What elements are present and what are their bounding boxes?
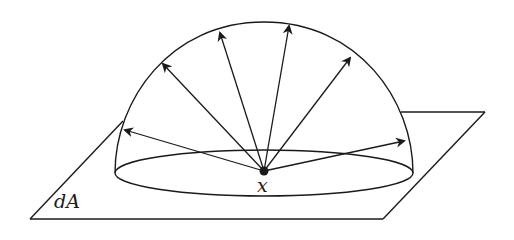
arrow-5 [264,58,350,171]
arrow-2 [163,64,264,171]
radiance-arrows [125,26,404,171]
point-label: x [257,174,268,196]
arrow-4 [264,26,289,171]
arrow-6 [264,141,404,171]
area-label: dA [54,190,80,212]
surface-plane [30,112,485,219]
